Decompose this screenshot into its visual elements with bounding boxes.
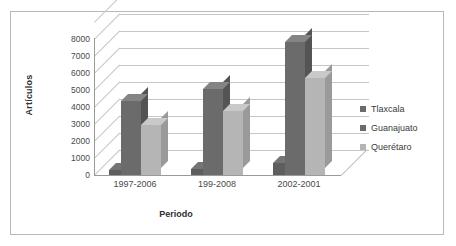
bar-guanajuato-1997-2006[interactable] [121, 101, 141, 175]
legend-item-tlaxcala[interactable]: Tlaxcala [360, 104, 444, 114]
bar-queretaro-2002-2001[interactable] [305, 78, 325, 175]
legend-label-tlaxcala: Tlaxcala [371, 104, 405, 114]
x-axis-tick-199-2008: 199-2008 [176, 179, 258, 189]
legend-label-queretaro: Querétaro [371, 142, 412, 152]
bar-group-2002-2001 [265, 12, 347, 175]
legend-swatch-icon-tlaxcala [360, 106, 366, 112]
x-axis-tick-2002-2001: 2002-2001 [258, 179, 340, 189]
bar-guanajuato-199-2008[interactable] [203, 89, 223, 175]
bar-queretaro-199-2008[interactable] [223, 111, 243, 175]
bar-guanajuato-2002-2001[interactable] [285, 42, 305, 175]
x-axis-line [94, 175, 341, 176]
legend-item-guanajuato[interactable]: Guanajuato [360, 123, 444, 133]
y-axis-tick-5000: 5000 [48, 85, 90, 95]
y-axis-tick-4000: 4000 [48, 102, 90, 112]
bar-group-199-2008 [183, 12, 265, 175]
chart-legend: Tlaxcala Guanajuato Querétaro [360, 104, 444, 161]
y-axis-title: Artículos [24, 55, 34, 135]
legend-item-queretaro[interactable]: Querétaro [360, 142, 444, 152]
chart-plot-area: Artículos Periodo 8000 7000 6000 5000 40… [11, 12, 445, 236]
y-axis-tick-7000: 7000 [48, 51, 90, 61]
y-axis-tick-6000: 6000 [48, 68, 90, 78]
chart-frame: Artículos Periodo 8000 7000 6000 5000 40… [10, 11, 444, 235]
x-axis-title: Periodo [11, 209, 341, 219]
y-axis-tick-8000: 8000 [48, 34, 90, 44]
legend-swatch-icon-guanajuato [360, 125, 366, 131]
y-axis-tick-1000: 1000 [48, 153, 90, 163]
y-axis-line [94, 38, 95, 175]
legend-label-guanajuato: Guanajuato [371, 123, 418, 133]
bar-group-1997-2006 [101, 12, 183, 175]
y-axis-tick-2000: 2000 [48, 136, 90, 146]
y-axis-tick-3000: 3000 [48, 119, 90, 129]
legend-swatch-icon-queretaro [360, 144, 366, 150]
bar-queretaro-1997-2006[interactable] [141, 125, 161, 175]
y-axis-tick-0: 0 [48, 170, 90, 180]
x-axis-tick-1997-2006: 1997-2006 [94, 179, 176, 189]
